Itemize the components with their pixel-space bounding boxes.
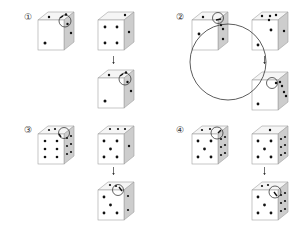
panel-3 [38, 126, 134, 220]
panel-4 [192, 126, 288, 220]
panel-label-1: ① [24, 13, 32, 22]
die-panel2-before [252, 12, 288, 50]
panel-2 [190, 12, 288, 110]
die-panel3-reference [38, 126, 74, 164]
panel-label-3: ③ [24, 126, 32, 135]
die-panel1-after [98, 70, 134, 108]
dice-rotation-figure: ① ② ③ ④ [0, 0, 305, 228]
die-panel4-reference [192, 126, 228, 164]
die-panel3-before [98, 126, 134, 164]
die-panel1-reference [38, 12, 74, 50]
die-panel2-reference [192, 12, 228, 50]
panel-label-2: ② [176, 13, 184, 22]
die-panel3-after [98, 182, 134, 220]
die-panel4-before [252, 126, 288, 164]
panel-1 [38, 12, 134, 108]
panel-label-4: ④ [176, 126, 184, 135]
die-panel4-after [252, 182, 288, 220]
die-panel2-after [252, 72, 288, 110]
die-panel1-before [98, 12, 134, 50]
